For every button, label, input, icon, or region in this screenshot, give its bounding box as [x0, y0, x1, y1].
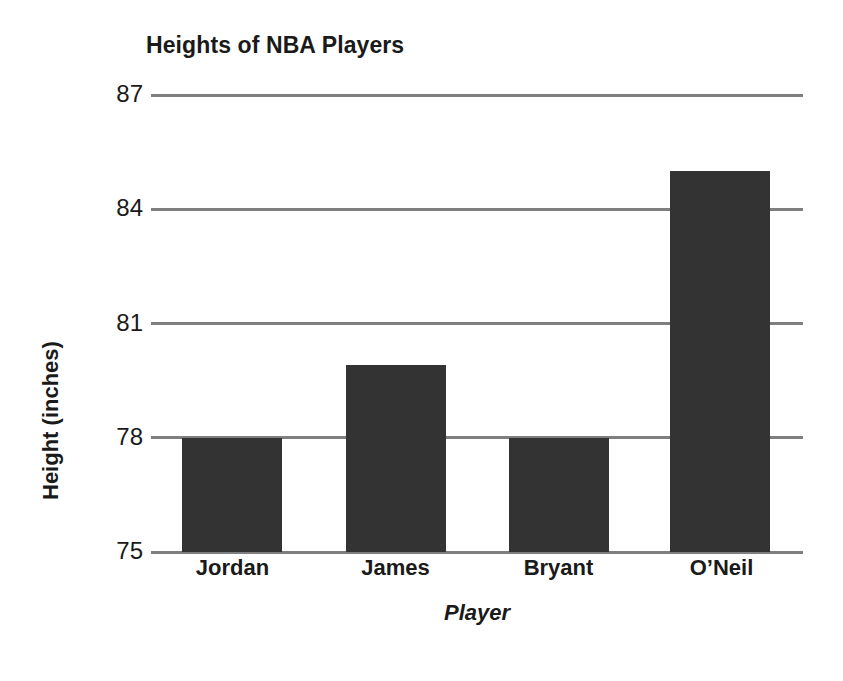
- plot-area: [151, 92, 803, 555]
- bar[interactable]: [670, 171, 770, 552]
- y-tick-label: 78: [83, 425, 143, 449]
- x-tick-label: Jordan: [151, 556, 314, 579]
- bar[interactable]: [182, 438, 282, 552]
- y-axis-title: Height (inches): [38, 100, 68, 500]
- x-axis-title: Player: [151, 600, 803, 626]
- bar[interactable]: [509, 438, 609, 552]
- x-tick-label: O’Neil: [640, 556, 803, 579]
- y-tick-label: 87: [83, 82, 143, 106]
- chart-title: Heights of NBA Players: [146, 32, 404, 59]
- y-tick-label: 75: [83, 539, 143, 563]
- bar[interactable]: [346, 365, 446, 552]
- x-tick-label: James: [314, 556, 477, 579]
- y-tick-label: 84: [83, 196, 143, 220]
- x-tick-label: Bryant: [477, 556, 640, 579]
- bar-chart-figure: Heights of NBA Players Height (inches) 7…: [0, 0, 843, 681]
- y-axis-tick-labels: 7578818487: [80, 0, 143, 681]
- y-tick-label: 81: [83, 311, 143, 335]
- x-axis-tick-labels: JordanJamesBryantO’Neil: [151, 556, 803, 588]
- gridline: [151, 94, 803, 97]
